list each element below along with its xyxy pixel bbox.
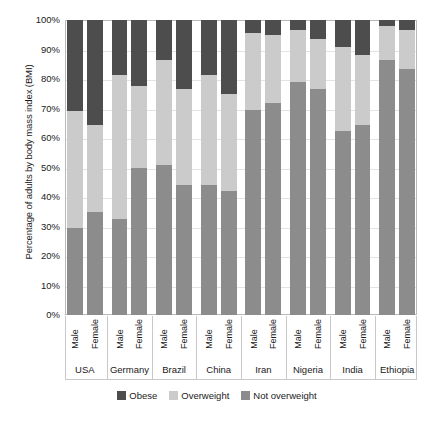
bar-india-male[interactable] xyxy=(335,20,351,315)
bar-germany-female[interactable] xyxy=(131,20,147,315)
bar-india-female[interactable] xyxy=(355,20,371,315)
bar-segment-overweight xyxy=(310,39,326,89)
bar-segment-not-overweight xyxy=(379,60,395,315)
bar-segment-overweight xyxy=(112,75,128,220)
x-tick-label-female: Female xyxy=(384,329,430,349)
bar-usa-male[interactable] xyxy=(67,20,83,315)
bar-segment-not-overweight xyxy=(87,212,103,315)
country-label-nigeria: Nigeria xyxy=(288,362,328,378)
bar-nigeria-female[interactable] xyxy=(310,20,326,315)
bar-segment-not-overweight xyxy=(176,185,192,315)
legend-label: Obese xyxy=(129,390,157,401)
y-tick-label: 40% xyxy=(20,192,60,202)
legend-item-obese[interactable]: Obese xyxy=(117,390,157,401)
bar-segment-overweight xyxy=(156,60,172,165)
chart-legend: ObeseOverweightNot overweight xyxy=(0,390,434,401)
bar-germany-male[interactable] xyxy=(112,20,128,315)
bar-nigeria-male[interactable] xyxy=(290,20,306,315)
group-separator xyxy=(375,316,376,380)
bar-segment-overweight xyxy=(265,35,281,103)
group-separator xyxy=(330,316,331,380)
bar-segment-obese xyxy=(335,20,351,47)
bar-segment-not-overweight xyxy=(201,185,217,315)
bar-segment-obese xyxy=(290,20,306,30)
y-tick-label: 60% xyxy=(20,133,60,143)
y-tick-label: 10% xyxy=(20,281,60,291)
bar-segment-overweight xyxy=(201,75,217,186)
bar-segment-overweight xyxy=(399,30,415,68)
bar-iran-female[interactable] xyxy=(265,20,281,315)
y-tick-label: 50% xyxy=(20,163,60,173)
legend-item-overweight[interactable]: Overweight xyxy=(169,390,229,401)
bar-ethiopia-male[interactable] xyxy=(379,20,395,315)
legend-swatch-icon xyxy=(241,391,250,400)
bars-container xyxy=(65,20,417,315)
bar-segment-not-overweight xyxy=(221,191,237,315)
country-label-brazil: Brazil xyxy=(154,362,194,378)
country-label-usa: USA xyxy=(65,362,105,378)
bar-segment-not-overweight xyxy=(112,219,128,315)
bar-segment-overweight xyxy=(131,86,147,167)
country-label-china: China xyxy=(199,362,239,378)
bar-segment-overweight xyxy=(335,47,351,131)
y-tick-label: 80% xyxy=(20,74,60,84)
bar-brazil-male[interactable] xyxy=(156,20,172,315)
bar-segment-not-overweight xyxy=(245,110,261,315)
bar-segment-obese xyxy=(156,20,172,60)
group-separator xyxy=(241,316,242,380)
country-label-germany: Germany xyxy=(110,362,150,378)
bar-usa-female[interactable] xyxy=(87,20,103,315)
y-tick-label: 90% xyxy=(20,45,60,55)
bar-segment-overweight xyxy=(290,30,306,82)
y-tick-label: 70% xyxy=(20,104,60,114)
bar-segment-overweight xyxy=(379,26,395,60)
y-tick-label: 100% xyxy=(20,15,60,25)
bar-brazil-female[interactable] xyxy=(176,20,192,315)
bar-segment-overweight xyxy=(221,94,237,191)
bar-segment-not-overweight xyxy=(265,103,281,315)
bar-segment-obese xyxy=(245,20,261,33)
bar-segment-not-overweight xyxy=(399,69,415,315)
country-label-india: India xyxy=(333,362,373,378)
bar-segment-not-overweight xyxy=(355,125,371,315)
bar-ethiopia-female[interactable] xyxy=(399,20,415,315)
bar-segment-overweight xyxy=(87,125,103,212)
bar-segment-overweight xyxy=(355,55,371,124)
bar-segment-obese xyxy=(176,20,192,89)
bar-segment-not-overweight xyxy=(290,82,306,315)
bar-segment-obese xyxy=(201,20,217,75)
bar-china-female[interactable] xyxy=(221,20,237,315)
bar-segment-overweight xyxy=(67,111,83,228)
bar-segment-not-overweight xyxy=(310,89,326,315)
bar-segment-not-overweight xyxy=(156,165,172,315)
group-separator xyxy=(107,316,108,380)
y-tick-label: 20% xyxy=(20,251,60,261)
bar-segment-obese xyxy=(87,20,103,125)
group-separator xyxy=(196,316,197,380)
bar-segment-not-overweight xyxy=(131,168,147,316)
bar-segment-obese xyxy=(399,20,415,30)
y-tick-label: 0% xyxy=(20,310,60,320)
group-separator xyxy=(152,316,153,380)
bar-segment-obese xyxy=(221,20,237,94)
legend-item-not-overweight[interactable]: Not overweight xyxy=(241,390,316,401)
bar-segment-overweight xyxy=(176,89,192,185)
bar-segment-obese xyxy=(112,20,128,75)
bar-segment-obese xyxy=(131,20,147,86)
bar-segment-obese xyxy=(265,20,281,35)
legend-label: Not overweight xyxy=(253,390,316,401)
bar-segment-not-overweight xyxy=(67,228,83,315)
bar-segment-obese xyxy=(67,20,83,111)
bar-segment-obese xyxy=(355,20,371,55)
bar-iran-male[interactable] xyxy=(245,20,261,315)
bar-china-male[interactable] xyxy=(201,20,217,315)
group-separator xyxy=(286,316,287,380)
bar-segment-obese xyxy=(310,20,326,39)
country-label-iran: Iran xyxy=(244,362,284,378)
bar-segment-overweight xyxy=(245,33,261,110)
bar-segment-not-overweight xyxy=(335,131,351,315)
y-tick-label: 30% xyxy=(20,222,60,232)
legend-swatch-icon xyxy=(117,391,126,400)
country-label-ethiopia: Ethiopia xyxy=(377,362,417,378)
bmi-stacked-bar-chart: Percentage of adults by body mass index … xyxy=(0,0,434,431)
